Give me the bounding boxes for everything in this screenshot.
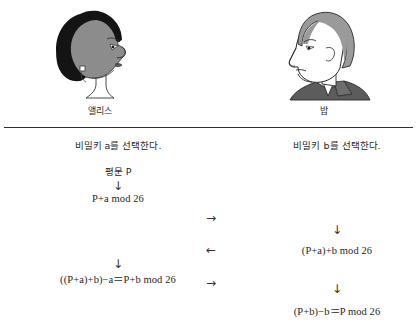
header-divider (4, 127, 413, 128)
woman-profile-icon (52, 4, 148, 104)
bob-encrypt-expression: (P+a)+b mod 26 (262, 245, 412, 256)
alice-arrow-down-2-icon: ↓ (108, 258, 128, 270)
alice-choose-key-text: 비밀키 a를 선택한다. (38, 138, 198, 152)
alice-encrypt-expression: P+a mod 26 (48, 193, 188, 204)
transmission-arrow-right-1-icon: → (196, 212, 226, 224)
transmission-arrow-right-2-icon: → (196, 277, 226, 289)
bob-portrait (282, 4, 378, 104)
bob-arrow-down-1-icon: ↓ (327, 224, 347, 236)
alice-portrait (52, 4, 148, 104)
alice-plaintext-text: 평문 P (58, 164, 178, 178)
man-profile-icon (282, 4, 378, 104)
alice-arrow-down-1-icon: ↓ (108, 180, 128, 192)
cryptography-diagram: 앨리스 (0, 0, 417, 328)
alice-decrypt-expression: ((P+a)+b)−a＝P+b mod 26 (13, 271, 223, 286)
transmission-arrow-left-icon: ← (196, 244, 226, 256)
bob-decrypt-expression: (P+b)−b＝P mod 26 (262, 303, 412, 318)
alice-name-label: 앨리스 (40, 104, 160, 117)
bob-name-label: 밥 (264, 104, 384, 117)
bob-arrow-down-2-icon: ↓ (327, 283, 347, 295)
bob-choose-key-text: 비밀키 b를 선택한다. (257, 138, 417, 152)
